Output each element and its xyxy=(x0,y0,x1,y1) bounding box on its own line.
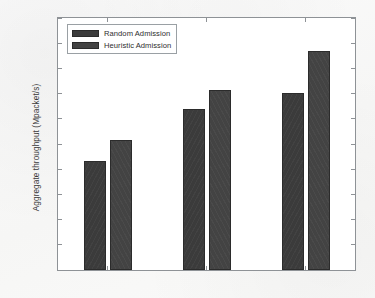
y-tick-mark xyxy=(58,169,62,170)
y-tick-mark-right xyxy=(351,244,355,245)
bar-heuristic-admission-scenario-2 xyxy=(209,90,231,270)
y-tick-mark-right xyxy=(351,93,355,94)
x-tick-mark-top xyxy=(305,18,306,22)
chart-legend: Random AdmissionHeuristic Admission xyxy=(67,24,177,54)
y-tick-mark-right xyxy=(351,194,355,195)
y-tick-mark xyxy=(58,194,62,195)
plot-inner: 050100150200250300350400450500 Scenario … xyxy=(58,18,355,270)
y-tick-mark-right xyxy=(351,219,355,220)
y-tick-mark xyxy=(58,144,62,145)
y-tick-mark xyxy=(58,270,62,271)
y-tick-mark-right xyxy=(351,18,355,19)
x-tick-mark xyxy=(107,266,108,270)
y-tick-mark xyxy=(58,93,62,94)
y-tick-mark-right xyxy=(351,169,355,170)
legend-swatch-icon xyxy=(72,30,99,37)
bar-heuristic-admission-scenario-3 xyxy=(308,51,330,270)
y-tick-mark-right xyxy=(351,68,355,69)
x-tick-mark xyxy=(206,266,207,270)
bar-random-admission-scenario-2 xyxy=(183,109,205,270)
bar-chart-figure: Aggregate throughput (Mpacket/s) 0501001… xyxy=(0,0,375,298)
y-tick-mark-right xyxy=(351,43,355,44)
x-tick-mark-top xyxy=(107,18,108,22)
y-tick-mark xyxy=(58,68,62,69)
x-tick-mark xyxy=(305,266,306,270)
y-tick-mark xyxy=(58,118,62,119)
x-tick-mark-top xyxy=(206,18,207,22)
y-tick-mark-right xyxy=(351,118,355,119)
bar-random-admission-scenario-1 xyxy=(84,161,106,270)
legend-item-random-admission: Random Admission xyxy=(72,28,171,38)
bar-random-admission-scenario-3 xyxy=(282,93,304,270)
y-tick-mark xyxy=(58,18,62,19)
y-tick-mark xyxy=(58,43,62,44)
legend-label: Heuristic Admission xyxy=(104,41,171,50)
y-tick-mark-right xyxy=(351,270,355,271)
y-tick-mark-right xyxy=(351,144,355,145)
y-tick-mark xyxy=(58,219,62,220)
y-axis-title: Aggregate throughput (Mpacket/s) xyxy=(32,38,41,258)
bar-heuristic-admission-scenario-1 xyxy=(110,140,132,270)
legend-label: Random Admission xyxy=(104,29,170,38)
plot-area: 050100150200250300350400450500 Scenario … xyxy=(57,17,356,271)
y-tick-mark xyxy=(58,244,62,245)
legend-swatch-icon xyxy=(72,42,99,49)
legend-item-heuristic-admission: Heuristic Admission xyxy=(72,40,171,50)
